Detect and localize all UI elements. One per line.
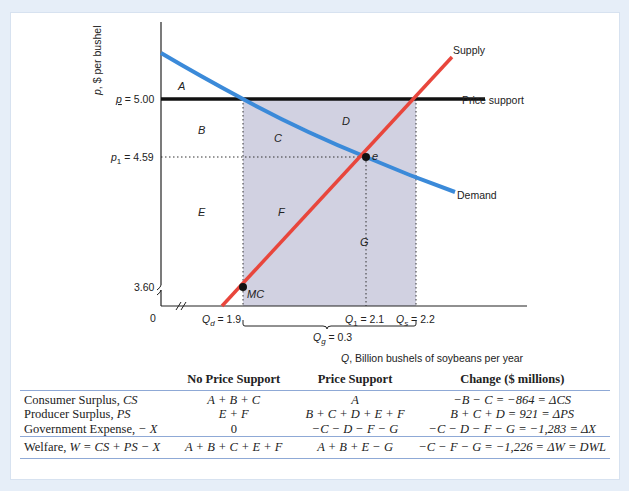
header-no-price-support: No Price Support xyxy=(172,372,296,390)
qg-label: Qg = 0.3 xyxy=(313,331,352,346)
header-change: Change ($ millions) xyxy=(414,372,610,390)
demand-label: Demand xyxy=(457,189,497,201)
y-tick-price-support: p = 5.00 xyxy=(115,93,154,105)
x-axis-label: Q, Billion bushels of soybeans per year xyxy=(341,352,524,364)
x-tick-qd: Qd = 1.9 xyxy=(202,313,241,328)
region-g-label: G xyxy=(360,236,369,248)
table-row-welfare: Welfare, W = CS + PS − X A + B + C + E +… xyxy=(20,437,610,459)
table-row: Government Expense, − X 0 −C − D − F − G… xyxy=(20,422,610,437)
price-support-chart: p, $ per bushel p = 5.00 p1 = 4.59 3.60 … xyxy=(0,0,629,372)
mc-label: MC xyxy=(247,288,264,300)
y-tick-360: 3.60 xyxy=(134,281,155,293)
region-b-label: B xyxy=(198,124,205,136)
equilibrium-label: e xyxy=(372,150,378,162)
region-e-label: E xyxy=(198,206,206,218)
y-tick-p1: p1 = 4.59 xyxy=(110,151,154,166)
region-a-label: A xyxy=(177,80,185,92)
welfare-table: No Price Support Price Support Change ($… xyxy=(20,372,610,459)
header-price-support: Price Support xyxy=(296,372,415,390)
equilibrium-point xyxy=(362,153,370,161)
mc-point xyxy=(239,283,247,291)
qg-brace xyxy=(243,320,416,329)
table-row: Producer Surplus, PS E + F B + C + D + E… xyxy=(20,407,610,422)
region-c-label: C xyxy=(274,132,282,144)
x-tick-zero: 0 xyxy=(150,312,156,324)
table-row: Consumer Surplus, CS A + B + C A −B − C … xyxy=(20,390,610,407)
table-header-row: No Price Support Price Support Change ($… xyxy=(20,372,610,390)
price-support-label: Price support xyxy=(462,94,524,106)
region-d-label: D xyxy=(342,115,350,127)
y-axis-label: p, $ per bushel xyxy=(91,26,103,96)
supply-label: Supply xyxy=(453,44,486,56)
